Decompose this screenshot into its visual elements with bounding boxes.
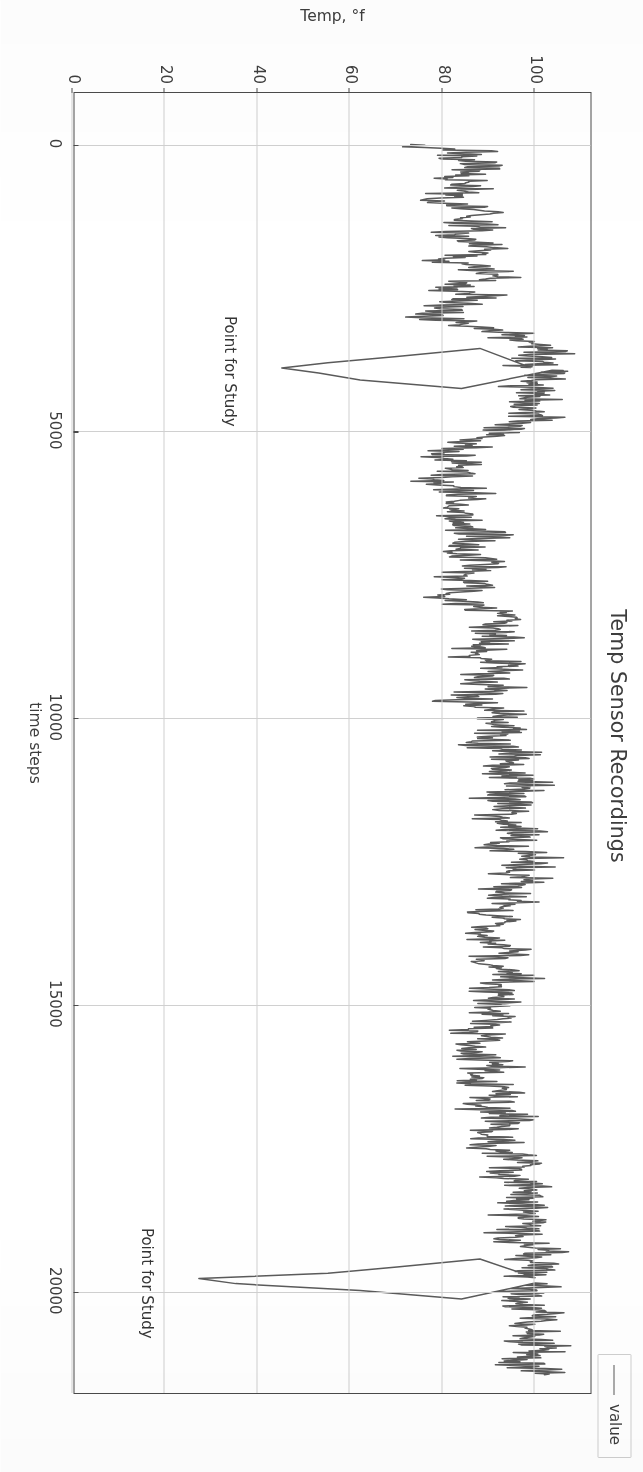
y-axis-tick-label: 40 — [249, 46, 267, 84]
y-axis-label: Temp, °f — [300, 7, 364, 25]
gridline-vertical — [74, 145, 590, 146]
figure-canvas: Temp Sensor Recordings Temp, °f 05000100… — [0, 0, 643, 1472]
figure-title: Temp Sensor Recordings — [605, 0, 629, 1472]
x-axis-tick — [73, 718, 78, 719]
annotation-point-for-study: Point for Study — [220, 316, 238, 427]
x-axis-tick — [73, 431, 78, 432]
y-axis-tick — [348, 88, 349, 93]
plot-area — [73, 92, 591, 1394]
legend-line-icon — [614, 1365, 615, 1395]
x-axis-tick-label: 15000 — [45, 980, 63, 1028]
legend: value — [597, 1354, 631, 1458]
gridline-horizontal — [349, 93, 350, 1393]
y-axis-tick-label: 20 — [157, 46, 175, 84]
y-axis-tick-label: 100 — [527, 46, 545, 84]
gridline-horizontal — [534, 93, 535, 1393]
gridline-horizontal — [441, 93, 442, 1393]
annotation-point-for-study: Point for Study — [137, 1228, 155, 1339]
x-axis-tick-label: 20000 — [45, 1267, 63, 1315]
gridline-horizontal — [164, 93, 165, 1393]
x-axis-tick-label: 0 — [45, 139, 63, 149]
x-axis-tick — [73, 1292, 78, 1293]
x-axis-tick — [73, 145, 78, 146]
x-axis-tick — [73, 1005, 78, 1006]
x-axis-tick-label: 10000 — [45, 693, 63, 741]
gridline-vertical — [74, 718, 590, 719]
y-axis-tick — [533, 88, 534, 93]
y-axis-label-wrapper: Temp, °f — [0, 34, 643, 35]
y-axis-tick — [71, 88, 72, 93]
y-axis-tick-label: 80 — [434, 46, 452, 84]
legend-label-value: value — [605, 1404, 623, 1445]
gridline-horizontal — [71, 93, 72, 1393]
y-axis-tick — [441, 88, 442, 93]
gridline-vertical — [74, 1005, 590, 1006]
y-axis-tick-label: 0 — [64, 46, 82, 84]
gridline-vertical — [74, 431, 590, 432]
y-axis-tick — [163, 88, 164, 93]
data-series-layer — [74, 93, 590, 1393]
x-axis-label: time steps — [25, 92, 43, 1394]
x-axis-tick-label: 5000 — [45, 411, 63, 449]
gridline-horizontal — [256, 93, 257, 1393]
y-axis-tick — [256, 88, 257, 93]
y-axis-tick-label: 60 — [342, 46, 360, 84]
series-line-value — [198, 145, 574, 1375]
